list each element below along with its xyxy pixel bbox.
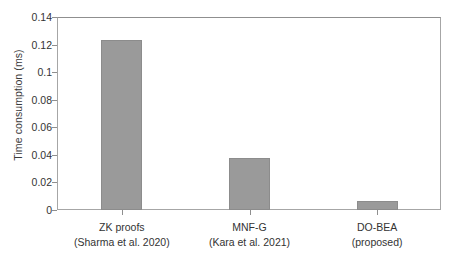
x-axis-tick-mark bbox=[377, 210, 378, 215]
x-axis-category-label: ZK proofs(Sharma et al. 2020) bbox=[74, 220, 170, 249]
x-axis-category-label-line2: (proposed) bbox=[352, 235, 403, 250]
x-axis-category-label-line2: (Kara et al. 2021) bbox=[209, 235, 290, 250]
x-axis-category-label-line1: MNF-G bbox=[232, 221, 266, 233]
y-axis-tick-label: 0.02 bbox=[4, 176, 52, 188]
x-axis-category-label-line2: (Sharma et al. 2020) bbox=[74, 235, 170, 250]
y-axis-tick-mark bbox=[52, 210, 57, 211]
y-axis-tick-label: 0.04 bbox=[4, 149, 52, 161]
x-axis-category-label: DO-BEA(proposed) bbox=[352, 220, 403, 249]
x-axis-category-label-line1: ZK proofs bbox=[99, 221, 145, 233]
y-axis-tick-label: 0.1 bbox=[4, 66, 52, 78]
x-axis-category-label-line1: DO-BEA bbox=[357, 221, 397, 233]
x-axis-tick-mark bbox=[122, 210, 123, 215]
bar bbox=[229, 158, 270, 210]
bar bbox=[101, 40, 142, 210]
y-axis-tick-label: 0.06 bbox=[4, 121, 52, 133]
bar bbox=[357, 201, 398, 210]
y-axis-tick-label: 0.12 bbox=[4, 39, 52, 51]
y-axis-tick-labels: 00.020.040.060.080.10.120.14 bbox=[0, 0, 52, 261]
plot-area bbox=[58, 17, 441, 210]
y-axis-tick-label: 0.08 bbox=[4, 94, 52, 106]
bar-chart-figure: Time consumption (ms) 00.020.040.060.080… bbox=[0, 0, 456, 261]
x-axis-category-label: MNF-G(Kara et al. 2021) bbox=[209, 220, 290, 249]
x-axis-tick-mark bbox=[250, 210, 251, 215]
y-axis-tick-label: 0.14 bbox=[4, 11, 52, 23]
y-axis-tick-label: 0 bbox=[4, 204, 52, 216]
